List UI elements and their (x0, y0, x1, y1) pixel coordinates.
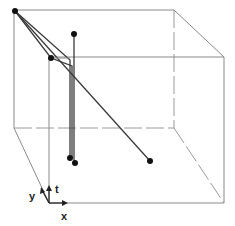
point-origin (12, 8, 18, 14)
trajectory-d (15, 11, 150, 161)
point-5 (72, 160, 78, 166)
point-4 (67, 155, 73, 161)
top-right-connector (174, 10, 224, 57)
x-arrowhead-icon (62, 200, 68, 206)
point-6 (147, 158, 153, 164)
point-2 (48, 55, 54, 61)
y-axis-label: y (29, 190, 36, 202)
x-axis-label: x (61, 210, 68, 222)
space-time-cube-diagram: x y t (0, 0, 235, 226)
point-3 (71, 31, 77, 37)
t-axis-label: t (55, 183, 59, 195)
bottom-right-connector-hidden (174, 128, 224, 203)
t-arrowhead-icon (46, 185, 52, 191)
trajectory-a (15, 11, 72, 158)
trajectory-b (15, 11, 70, 158)
